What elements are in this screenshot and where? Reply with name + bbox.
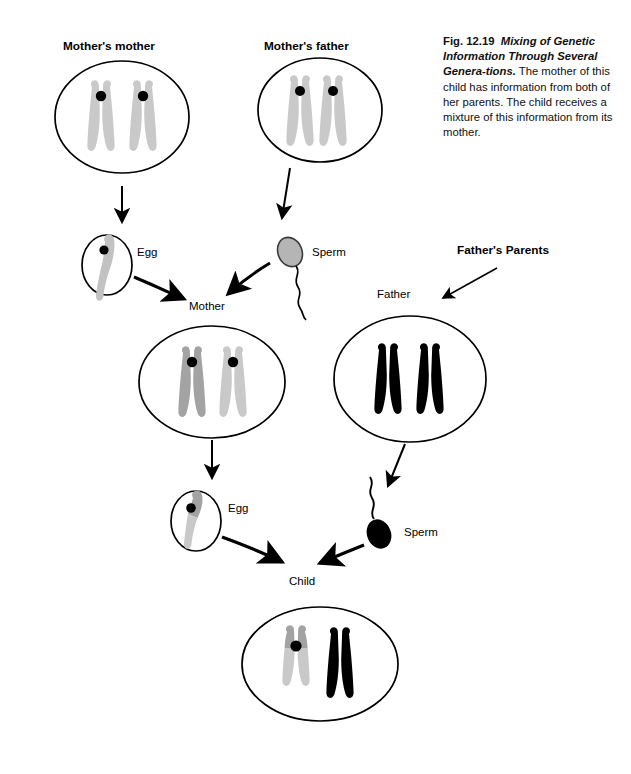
centromere-dot: [138, 91, 148, 101]
centromere-dot: [295, 86, 305, 96]
cell-child: [242, 607, 398, 721]
arrow-mothersfather-to-sperm: [282, 168, 290, 218]
cell-father: [334, 316, 486, 442]
centromere-dot: [290, 640, 301, 651]
sperm-tail: [296, 266, 306, 320]
gamete-sperm-bottom: [363, 477, 396, 552]
figure-caption: Fig. 12.19 Mixing of Genetic Information…: [443, 34, 623, 140]
cell-mothers-father: [258, 58, 382, 162]
centromere-dot: [186, 503, 196, 513]
label-mothers-mother: Mother's mother: [63, 39, 155, 53]
arrow-egg-to-mother: [134, 277, 184, 299]
figure-number: Fig. 12.19: [443, 35, 495, 47]
gamete-egg-top: [82, 235, 132, 301]
arrow-fathers-parents-to-father: [443, 268, 497, 298]
label-sperm-bottom: Sperm: [404, 526, 438, 538]
gamete-sperm-top: [273, 234, 306, 320]
centromere-dot: [187, 357, 197, 367]
label-egg-top: Egg: [137, 246, 157, 258]
label-child: Child: [289, 575, 315, 587]
arrow-sperm-to-child: [320, 545, 364, 563]
cell-mother: [139, 326, 285, 438]
label-mother: Mother: [189, 300, 225, 312]
gamete-egg-bottom: [171, 491, 221, 551]
arrow-egg-to-child: [222, 537, 282, 562]
figure-title-tail: tions.: [486, 65, 516, 77]
sperm-tail: [370, 477, 374, 519]
cell-mothers-mother: [55, 61, 189, 173]
figure-canvas: Mother's mother Mother's father Egg Sper…: [0, 0, 631, 774]
centromere-dot: [228, 357, 238, 367]
centromere-dot: [96, 91, 106, 101]
centromere-dot: [328, 86, 338, 96]
label-fathers-parents: Father's Parents: [457, 243, 549, 257]
centromere-dot: [99, 245, 108, 254]
label-egg-bottom: Egg: [228, 502, 248, 514]
arrow-father-to-sperm: [388, 444, 405, 486]
label-sperm-top: Sperm: [312, 246, 346, 258]
label-mothers-father: Mother's father: [264, 39, 349, 53]
arrow-sperm-to-mother: [228, 263, 270, 294]
label-father: Father: [377, 288, 410, 300]
